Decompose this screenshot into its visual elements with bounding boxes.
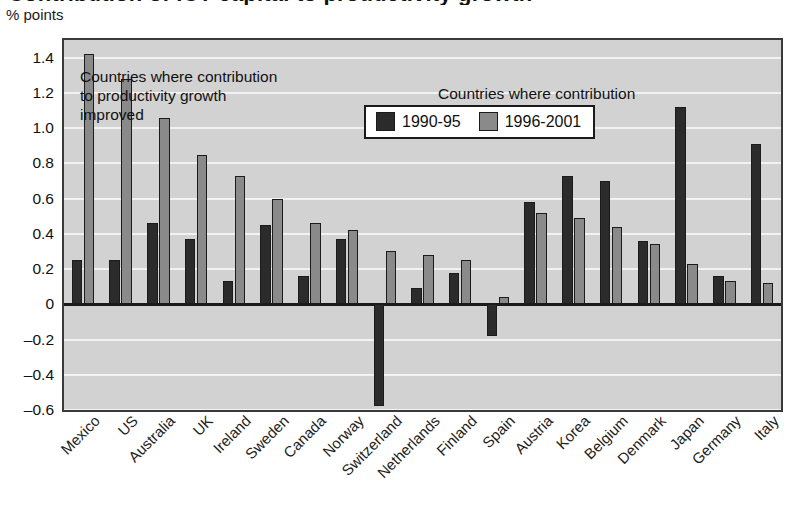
y-tick-label: 0	[2, 295, 54, 313]
bar-uk-1990-95	[185, 239, 196, 304]
chart-title-cropped: Contribution of ICT capital to productiv…	[8, 0, 608, 5]
bar-finland-1990-95	[449, 273, 460, 305]
y-tick-label: –0.6	[2, 401, 54, 419]
legend-label-1990-95: 1990-95	[402, 113, 461, 131]
legend-swatch-1996-2001	[479, 112, 498, 131]
bar-spain-1996-2001	[499, 297, 510, 304]
bar-uk-1996-2001	[197, 155, 208, 305]
chart-legend: 1990-95 1996-2001	[364, 105, 595, 139]
bar-ireland-1996-2001	[235, 176, 246, 305]
legend-item-0: 1990-95	[376, 112, 461, 131]
y-tick-label: 1.2	[2, 84, 54, 102]
legend-item-1: 1996-2001	[479, 112, 582, 131]
legend-label-1996-2001: 1996-2001	[505, 113, 582, 131]
bar-germany-1990-95	[713, 276, 724, 304]
y-tick-label: 1.4	[2, 49, 54, 67]
bar-netherlands-1996-2001	[423, 255, 434, 304]
bar-canada-1996-2001	[310, 223, 321, 304]
y-axis-unit-label: % points	[6, 6, 64, 23]
y-tick-label: 1.0	[2, 119, 54, 137]
y-tick-label: 0.8	[2, 154, 54, 172]
bar-germany-1996-2001	[725, 281, 736, 304]
bar-sweden-1990-95	[260, 225, 271, 304]
plot-area: 1990-95 1996-2001 Countries where contri…	[62, 38, 783, 412]
bar-austria-1990-95	[524, 202, 535, 304]
bar-canada-1990-95	[298, 276, 309, 304]
bar-mexico-1990-95	[72, 260, 83, 304]
chart-root: Contribution of ICT capital to productiv…	[0, 0, 798, 519]
bar-spain-1990-95	[487, 304, 498, 336]
bar-belgium-1996-2001	[612, 227, 623, 305]
y-tick-label: 0.2	[2, 260, 54, 278]
bar-austria-1996-2001	[536, 213, 547, 305]
bar-australia-1990-95	[147, 223, 158, 304]
legend-swatch-1990-95	[376, 112, 395, 131]
bar-finland-1996-2001	[461, 260, 472, 304]
bar-belgium-1990-95	[600, 181, 611, 304]
y-tick-label: –0.4	[2, 366, 54, 384]
bar-sweden-1996-2001	[272, 199, 283, 305]
y-tick-label: –0.2	[2, 331, 54, 349]
bar-switzerland-1996-2001	[386, 251, 397, 304]
bar-japan-1996-2001	[687, 264, 698, 305]
bar-us-1990-95	[109, 260, 120, 304]
y-tick-label: 0.4	[2, 225, 54, 243]
bar-norway-1996-2001	[348, 230, 359, 304]
annotation-improved: Countries where contribution to producti…	[80, 67, 277, 124]
bar-netherlands-1990-95	[411, 288, 422, 304]
bar-korea-1996-2001	[574, 218, 585, 304]
bar-ireland-1990-95	[223, 281, 234, 304]
bar-italy-1990-95	[751, 144, 762, 304]
bar-italy-1996-2001	[763, 283, 774, 304]
y-tick-label: 0.6	[2, 190, 54, 208]
bar-japan-1990-95	[675, 107, 686, 304]
x-axis-tick-labels: MexicoUSAustraliaUKIrelandSwedenCanadaNo…	[62, 412, 783, 519]
bar-denmark-1996-2001	[650, 244, 661, 304]
bar-korea-1990-95	[562, 176, 573, 305]
bar-norway-1990-95	[336, 239, 347, 304]
bar-australia-1996-2001	[159, 118, 170, 305]
bar-denmark-1990-95	[638, 241, 649, 304]
chart-title-text: Contribution of ICT capital to productiv…	[8, 0, 608, 5]
